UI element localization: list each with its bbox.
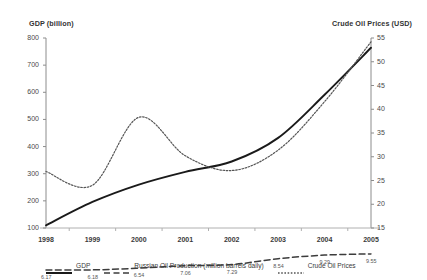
x-axis-label: 2005 [351, 236, 391, 243]
x-axis-label: 2003 [258, 236, 298, 243]
left-tick-label: 100 [17, 224, 39, 231]
x-axis-label: 2001 [165, 236, 205, 243]
right-tick-label: 25 [377, 177, 399, 184]
legend-item-0[interactable]: GDP [46, 262, 90, 269]
data-point-label: 6.54 [134, 272, 145, 278]
series-line-2 [46, 42, 371, 188]
chart-legend: GDPRussian Oil Production (million barre… [46, 257, 406, 273]
legend-item-2[interactable]: Crude Oil Prices [278, 262, 356, 269]
legend-label: GDP [76, 262, 90, 269]
left-tick-label: 200 [17, 197, 39, 204]
legend-label: Crude Oil Prices [308, 262, 356, 269]
legend-item-1[interactable]: Russian Oil Production (million barrels … [104, 262, 263, 269]
x-axis-label: 1999 [72, 236, 112, 243]
x-axis-label: 2000 [119, 236, 159, 243]
left-tick-label: 300 [17, 170, 39, 177]
x-axis-label: 2004 [305, 236, 345, 243]
left-tick-label: 600 [17, 88, 39, 95]
right-tick-label: 20 [377, 200, 399, 207]
x-axis-label: 2002 [212, 236, 252, 243]
series-line-0 [46, 48, 371, 226]
legend-swatch-dashed [104, 262, 130, 268]
right-tick-label: 55 [377, 34, 399, 41]
right-tick-label: 40 [377, 105, 399, 112]
right-tick-label: 15 [377, 224, 399, 231]
legend-label: Russian Oil Production (million barrels … [134, 262, 263, 269]
right-tick-label: 35 [377, 129, 399, 136]
legend-swatch-solid [46, 262, 72, 268]
left-tick-label: 500 [17, 115, 39, 122]
x-axis-label: 1998 [26, 236, 66, 243]
right-tick-label: 45 [377, 82, 399, 89]
left-tick-label: 400 [17, 143, 39, 150]
legend-swatch-dotted [278, 262, 304, 268]
data-point-label: 6.18 [87, 274, 98, 280]
left-tick-label: 800 [17, 34, 39, 41]
left-tick-label: 700 [17, 61, 39, 68]
right-tick-label: 50 [377, 58, 399, 65]
right-tick-label: 30 [377, 153, 399, 160]
